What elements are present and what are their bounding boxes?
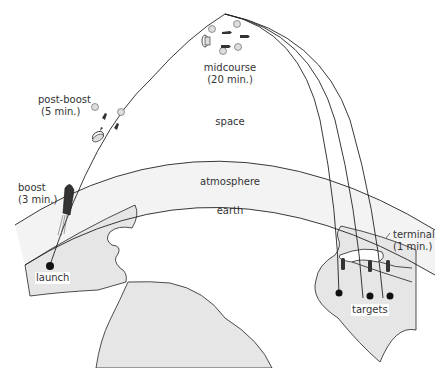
terminal-warhead-icon	[368, 260, 372, 272]
target-point	[367, 293, 374, 300]
label-boost: boost (3 min.)	[18, 182, 57, 206]
post-boost-warhead-icon	[114, 123, 119, 130]
launch-point	[46, 262, 54, 270]
midcourse-warhead-icon	[222, 31, 232, 34]
post-boost-duration: (5 min.)	[38, 106, 91, 118]
target-point	[336, 290, 343, 297]
post-boost-warhead-icon	[102, 113, 107, 120]
terminal-warhead-icon	[341, 258, 345, 270]
midcourse-duration: (20 min.)	[195, 74, 265, 86]
label-targets: targets	[351, 304, 389, 316]
post-boost-name: post-boost	[38, 94, 91, 106]
label-midcourse: midcourse (20 min.)	[195, 62, 265, 86]
terminal-warhead-icon	[386, 260, 390, 272]
target-point	[387, 293, 394, 300]
label-atmosphere: atmosphere	[180, 176, 280, 188]
boost-duration: (3 min.)	[18, 194, 57, 206]
midcourse-decoy-icon	[234, 21, 241, 28]
post-boost-decoy-icon	[92, 104, 99, 111]
terminal-name: terminal	[393, 229, 435, 241]
land-continent	[96, 282, 272, 368]
trajectory-diagram: midcourse (20 min.) post-boost (5 min.) …	[0, 0, 448, 368]
midcourse-name: midcourse	[195, 62, 265, 74]
trajectory-reentry-1	[225, 14, 339, 295]
midcourse-warhead-icon	[240, 35, 250, 38]
terminal-duration: (1 min.)	[393, 241, 435, 253]
post-boost-warhead-icon	[100, 127, 103, 131]
label-terminal: terminal (1 min.)	[393, 229, 435, 253]
post-boost-decoy-icon	[118, 109, 125, 116]
midcourse-decoy-icon	[209, 26, 216, 33]
label-space: space	[200, 116, 260, 128]
label-post-boost: post-boost (5 min.)	[38, 94, 91, 118]
boost-name: boost	[18, 182, 57, 194]
label-launch: launch	[35, 272, 70, 284]
label-earth: earth	[200, 205, 260, 217]
midcourse-decoy-icon	[220, 48, 227, 55]
midcourse-bus-icon	[202, 35, 210, 47]
midcourse-warhead-icon	[221, 45, 231, 48]
midcourse-decoy-icon	[235, 44, 242, 51]
